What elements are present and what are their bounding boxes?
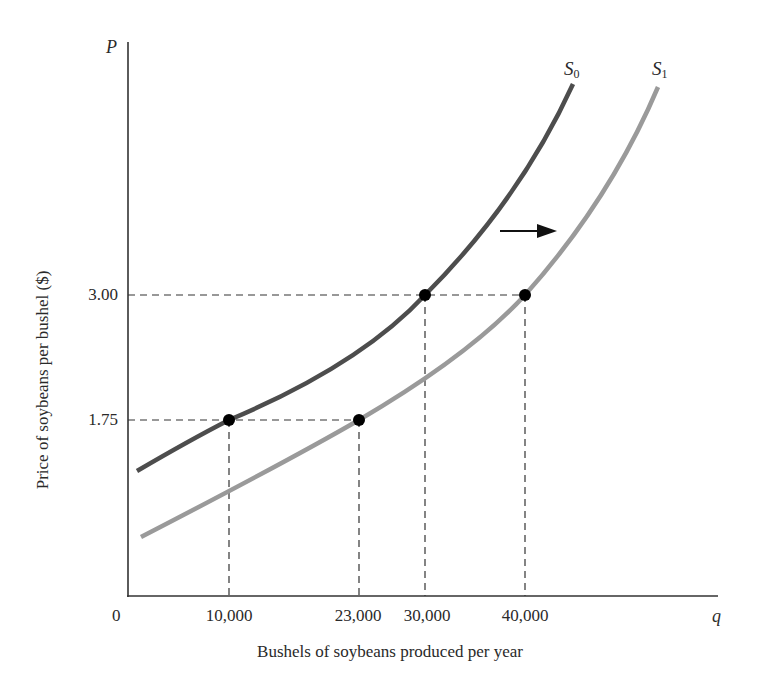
y-tick-1-75: 1.75 bbox=[58, 410, 118, 430]
supply-curve-s0 bbox=[137, 84, 573, 471]
y-axis-title: Price of soybeans per bushel ($) bbox=[33, 271, 53, 490]
equilibrium-points bbox=[223, 289, 531, 426]
point-s1-3-00 bbox=[519, 289, 531, 301]
x-axis-title: Bushels of soybeans produced per year bbox=[257, 642, 523, 662]
point-s0-3-00 bbox=[419, 289, 431, 301]
y-axis-symbol: P bbox=[106, 37, 117, 58]
s0-label: S0 bbox=[564, 58, 580, 82]
s1-label: S1 bbox=[652, 58, 668, 82]
dashed-guides bbox=[128, 295, 525, 596]
supply-shift-chart bbox=[0, 0, 762, 692]
x-tick-10000: 10,000 bbox=[206, 606, 253, 626]
shift-arrow-icon bbox=[500, 224, 557, 238]
y-tick-3-00: 3.00 bbox=[58, 285, 118, 305]
point-s0-1-75 bbox=[223, 414, 235, 426]
supply-curve-s1 bbox=[141, 87, 658, 537]
x-tick-23000: 23,000 bbox=[335, 606, 382, 626]
x-tick-40000: 40,000 bbox=[502, 606, 549, 626]
x-axis-symbol: q bbox=[712, 606, 721, 627]
point-s1-1-75 bbox=[353, 414, 365, 426]
origin-label: 0 bbox=[112, 606, 121, 626]
x-tick-30000: 30,000 bbox=[404, 606, 451, 626]
